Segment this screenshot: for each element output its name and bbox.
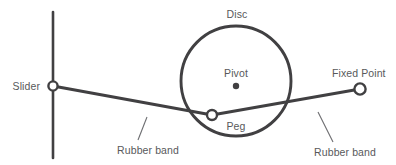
mechanism-diagram: Slider Disc Pivot Peg Fixed Point Rubber… — [0, 0, 396, 165]
diagram-canvas: Slider Disc Pivot Peg Fixed Point Rubber… — [0, 0, 396, 165]
leader-line-rubber-band-left — [138, 117, 147, 140]
pivot-dot-icon — [233, 83, 239, 89]
label-slider: Slider — [13, 80, 41, 92]
label-fixed-point: Fixed Point — [332, 67, 386, 79]
leader-line-rubber-band-right — [318, 112, 333, 142]
rubber-band-left-segment — [53, 86, 212, 115]
peg-marker-icon — [207, 110, 217, 120]
label-pivot: Pivot — [224, 67, 248, 79]
label-peg: Peg — [227, 120, 246, 132]
label-rubber-band-right: Rubber band — [314, 146, 376, 158]
slider-marker-icon — [48, 81, 57, 90]
rubber-band-right-segment — [212, 89, 360, 115]
label-rubber-band-left: Rubber band — [117, 144, 179, 156]
fixed-point-marker-icon — [354, 83, 365, 94]
label-disc: Disc — [227, 8, 248, 20]
